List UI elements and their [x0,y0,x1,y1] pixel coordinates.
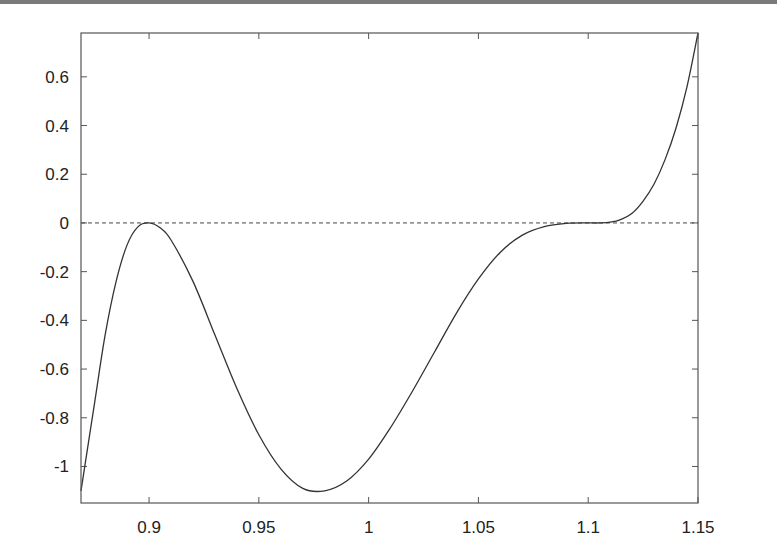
y-tick-label: -0.4 [40,311,69,330]
x-tick-label: 0.95 [242,518,275,537]
axis-ticks [81,33,698,503]
tick-labels: 0.90.9511.051.11.150.60.40.20-0.2-0.4-0.… [40,68,715,537]
y-tick-label: 0.6 [45,68,69,87]
y-tick-label: 0.2 [45,165,69,184]
y-tick-label: -1 [54,457,69,476]
y-tick-label: 0.4 [45,117,69,136]
y-tick-label: -0.2 [40,263,69,282]
x-tick-label: 1.1 [576,518,600,537]
y-tick-label: 0 [60,214,69,233]
data-curve [81,33,698,492]
x-tick-label: 1 [364,518,373,537]
y-tick-label: -0.8 [40,409,69,428]
line-chart: 0.90.9511.051.11.150.60.40.20-0.2-0.4-0.… [0,0,777,556]
plot-frame [81,33,698,503]
x-tick-label: 0.9 [137,518,161,537]
x-tick-label: 1.15 [681,518,714,537]
x-tick-label: 1.05 [462,518,495,537]
y-tick-label: -0.6 [40,360,69,379]
